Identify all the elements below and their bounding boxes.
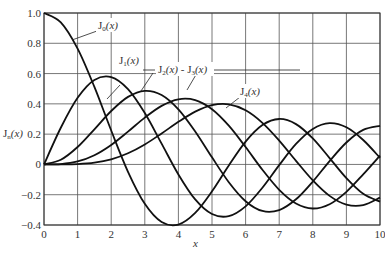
j0-label: J0(x) [98,19,118,33]
bessel-chart: 012345678910 1.00.80.60.40.20−0.2−0.4 J0… [0,0,385,257]
x-tick-label: 1 [75,228,81,240]
y-tick-label: −0.4 [21,219,41,231]
y-axis-ticks: 1.00.80.60.40.20−0.2−0.4 [21,7,41,231]
x-tick-label: 7 [276,228,282,240]
grid-lines [44,13,380,225]
y-tick-label: 0.8 [27,37,41,49]
y-axis-label: Jn(x) [3,127,23,141]
x-tick-label: 5 [209,228,215,240]
x-tick-label: 4 [176,228,182,240]
y-tick-label: 0.6 [27,68,41,80]
x-tick-label: 10 [375,228,385,240]
x-tick-label: 2 [108,228,114,240]
j2-leader [141,73,153,91]
x-axis-label: x [192,237,198,249]
x-tick-label: 9 [344,228,350,240]
j1-label: J1(x) [119,54,139,68]
x-axis-ticks: 012345678910 [41,228,385,240]
j1-leader [107,85,120,99]
y-tick-label: 1.0 [27,7,41,19]
y-tick-label: 0.4 [27,98,41,110]
x-tick-label: 6 [243,228,249,240]
j0-leader [72,31,97,40]
y-tick-label: −0.2 [21,189,41,201]
y-tick-label: 0.2 [27,128,41,140]
j2-j3-label: J2(x) - J3(x) [158,63,207,77]
x-tick-label: 3 [142,228,148,240]
y-tick-label: 0 [36,158,42,170]
x-tick-label: 0 [41,228,47,240]
x-tick-label: 8 [310,228,316,240]
j4-label: J4(x) [240,85,260,99]
